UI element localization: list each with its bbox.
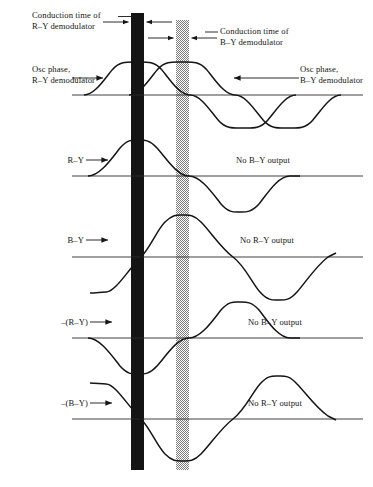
row-note-by: No R–Y output — [240, 235, 360, 246]
by-conduction-gate-bar — [176, 20, 189, 470]
row-label-neg-ry: –(R–Y) — [34, 317, 88, 328]
ry-conduction-gate-bar — [131, 13, 144, 470]
wave-by — [90, 215, 336, 300]
row-label-ry: R–Y — [44, 155, 84, 166]
label-conduction-time-ry: Conduction time of R–Y demodulator — [32, 10, 122, 31]
label-osc-phase-ry: Osc phase, R–Y demodulator — [32, 64, 122, 85]
row-note-neg-ry: No B–Y output — [248, 317, 368, 328]
label-osc-phase-by: Osc phase, B–Y demodulator — [300, 64, 373, 85]
row-note-ry: No B–Y output — [236, 155, 356, 166]
wave-nby — [90, 376, 336, 461]
label-conduction-time-by: Conduction time of B–Y demodulator — [220, 26, 340, 47]
row-label-by: B–Y — [44, 235, 84, 246]
row-label-neg-by: –(B–Y) — [34, 398, 88, 409]
row-note-neg-by: No R–Y output — [248, 398, 368, 409]
figure-canvas: Conduction time of R–Y demodulator Condu… — [0, 0, 373, 487]
